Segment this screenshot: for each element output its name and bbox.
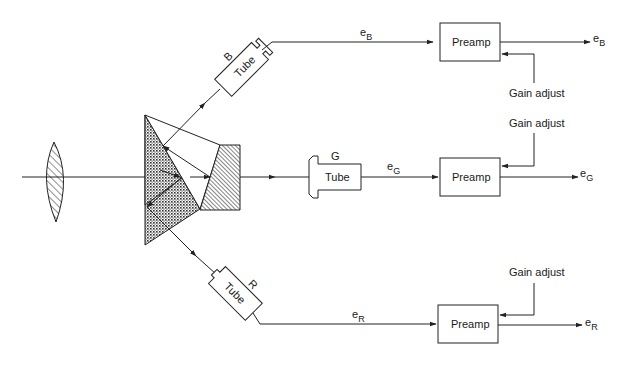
preamp-g-label: Preamp bbox=[452, 171, 491, 183]
signal-eg-in: eG bbox=[387, 160, 400, 176]
preamp-r-label: Preamp bbox=[451, 318, 490, 330]
tube-r: Tube R bbox=[206, 255, 272, 321]
preamp-g: Preamp bbox=[440, 158, 500, 196]
preamp-b: Preamp bbox=[440, 23, 500, 61]
signal-er-in: eR bbox=[352, 308, 365, 324]
gain-adjust-r: Gain adjust bbox=[509, 266, 565, 278]
dichroic-prism bbox=[145, 115, 240, 245]
preamp-b-label: Preamp bbox=[452, 36, 491, 48]
tube-g-channel: G bbox=[331, 150, 340, 162]
gain-adjust-b: Gain adjust bbox=[509, 87, 565, 99]
signal-eg-out: eG bbox=[580, 167, 593, 183]
signal-er-out: eR bbox=[585, 316, 598, 332]
signal-eb-out: eB bbox=[593, 32, 605, 48]
preamp-r: Preamp bbox=[438, 305, 498, 343]
tube-g-label: Tube bbox=[325, 171, 350, 183]
tube-b: Tube B bbox=[206, 28, 275, 97]
gain-adjust-g: Gain adjust bbox=[509, 117, 565, 129]
lens-icon bbox=[46, 142, 63, 222]
tube-r-lead bbox=[253, 313, 260, 324]
tube-g: Tube G bbox=[309, 150, 361, 198]
signal-eb-in: eB bbox=[360, 26, 372, 42]
diagram-canvas: Tube B Tube R Tube G eB eG eR Preamp eB … bbox=[0, 0, 627, 369]
